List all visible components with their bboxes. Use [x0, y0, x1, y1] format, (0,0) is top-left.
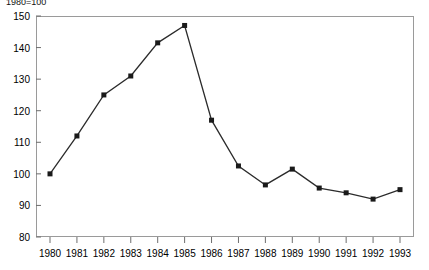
x-tick-label: 1993	[380, 248, 420, 259]
data-point-marker	[398, 187, 403, 192]
x-axis-ticks	[50, 237, 400, 243]
data-point-marker	[48, 171, 53, 176]
y-tick-label: 140	[0, 42, 30, 53]
y-tick-label: 90	[0, 200, 30, 211]
series-markers	[48, 23, 403, 202]
line-chart-svg	[0, 0, 429, 270]
y-tick-label: 130	[0, 74, 30, 85]
data-point-marker	[236, 163, 241, 168]
data-point-marker	[263, 182, 268, 187]
data-point-marker	[101, 92, 106, 97]
y-tick-label: 80	[0, 232, 30, 243]
data-point-marker	[182, 23, 187, 28]
data-point-marker	[209, 118, 214, 123]
y-tick-label: 100	[0, 168, 30, 179]
data-point-marker	[74, 133, 79, 138]
data-point-marker	[371, 197, 376, 202]
data-point-marker	[155, 40, 160, 45]
data-point-marker	[344, 190, 349, 195]
chart-figure: 1980=100 8090100110120130140150 19801981…	[0, 0, 429, 270]
data-point-marker	[317, 186, 322, 191]
series-line-index	[50, 25, 400, 199]
y-tick-label: 110	[0, 137, 30, 148]
y-tick-label: 150	[0, 11, 30, 22]
y-axis-ticks	[36, 16, 41, 237]
y-tick-label: 120	[0, 105, 30, 116]
data-point-marker	[290, 167, 295, 172]
data-point-marker	[128, 73, 133, 78]
